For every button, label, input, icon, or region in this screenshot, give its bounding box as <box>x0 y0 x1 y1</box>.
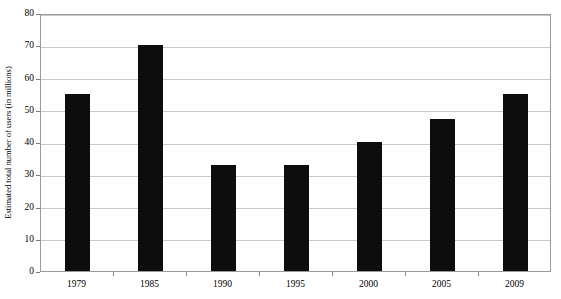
bar-chart: Estimated total number of users (in mill… <box>0 0 561 299</box>
y-axis-tick-label: 70 <box>0 41 34 51</box>
gridline <box>41 111 550 112</box>
y-axis-tick-label: 60 <box>0 74 34 84</box>
x-axis-tick-label: 2009 <box>505 279 524 289</box>
x-axis-tick-label: 1990 <box>213 279 232 289</box>
y-axis-tick-mark <box>36 175 40 176</box>
y-axis-tick-label: 20 <box>0 203 34 213</box>
gridline <box>41 15 550 16</box>
y-axis-tick-label: 30 <box>0 170 34 180</box>
x-axis-tick-mark <box>259 272 260 276</box>
y-axis-tick-label: 0 <box>0 267 34 277</box>
y-axis-tick-mark <box>36 14 40 15</box>
bar <box>357 142 383 271</box>
y-axis-tick-mark <box>36 272 40 273</box>
plot-area <box>40 14 551 272</box>
x-axis-tick-mark <box>405 272 406 276</box>
gridline <box>41 47 550 48</box>
gridline <box>41 79 550 80</box>
bar <box>284 165 310 271</box>
y-axis-tick-label: 80 <box>0 9 34 19</box>
y-axis-tick-label: 50 <box>0 106 34 116</box>
y-axis-tick-mark <box>36 46 40 47</box>
bar <box>138 45 164 271</box>
bar <box>503 94 529 271</box>
x-axis-tick-mark <box>186 272 187 276</box>
x-axis-tick-label: 1979 <box>67 279 86 289</box>
x-axis-tick-label: 1985 <box>140 279 159 289</box>
bar <box>211 165 237 271</box>
gridline <box>41 144 550 145</box>
x-axis-tick-mark <box>478 272 479 276</box>
y-axis-tick-label: 10 <box>0 235 34 245</box>
y-axis-tick-label: 40 <box>0 138 34 148</box>
y-axis-tick-mark <box>36 240 40 241</box>
x-axis-tick-mark <box>113 272 114 276</box>
bar <box>430 119 456 271</box>
x-axis-tick-label: 2005 <box>432 279 451 289</box>
cut-off-title-strip <box>0 0 561 8</box>
x-axis-tick-label: 1995 <box>286 279 305 289</box>
x-axis-tick-label: 2000 <box>359 279 378 289</box>
y-axis-tick-mark <box>36 143 40 144</box>
y-axis-tick-mark <box>36 111 40 112</box>
bar <box>65 94 91 271</box>
y-axis-tick-mark <box>36 79 40 80</box>
y-axis-tick-mark <box>36 208 40 209</box>
x-axis-tick-mark <box>332 272 333 276</box>
